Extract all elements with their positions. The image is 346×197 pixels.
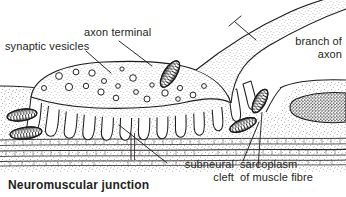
label-axon-terminal: axon terminal	[84, 26, 151, 39]
label-branch-of-axon: branch of axon	[258, 35, 342, 60]
label-sarcoplasm-of-muscle-fibre: sarcoplasm of muscle fibre	[240, 158, 344, 183]
label-subneural-cleft: subneural cleft	[168, 158, 234, 183]
label-synaptic-vesicles: synaptic vesicles	[5, 40, 89, 53]
figure-title: Neuromuscular junction	[8, 178, 149, 192]
neuromuscular-junction-figure: synaptic vesicles axon terminal branch o…	[0, 0, 346, 197]
